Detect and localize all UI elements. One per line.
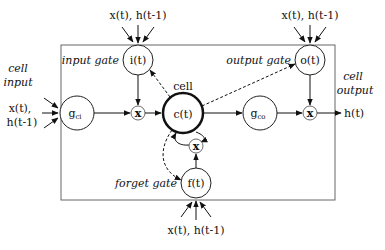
peephole-output-gate bbox=[202, 64, 295, 106]
input-gate-inputs-label: x(t), h(t-1) bbox=[109, 9, 166, 22]
input-gate-inputs: x(t), h(t-1) bbox=[109, 9, 166, 43]
output-gate-inputs: x(t), h(t-1) bbox=[281, 9, 338, 43]
cell-node: c(t) bbox=[163, 93, 203, 133]
input-gate-label: input gate bbox=[62, 54, 120, 67]
svg-text:c(t): c(t) bbox=[173, 108, 192, 121]
output-gate-node: o(t) bbox=[295, 45, 325, 75]
forget-gate-inputs: x(t), h(t-1) bbox=[167, 201, 224, 237]
lstm-diagram: x(t), h(t-1) x(t), h(t-1) i(t) input gat… bbox=[0, 0, 385, 250]
peephole-input-gate bbox=[150, 70, 170, 97]
left-input-label-2: h(t-1) bbox=[7, 116, 38, 129]
forget-gate-node: f(t) bbox=[181, 168, 211, 198]
cell-output-label-2: output bbox=[337, 84, 374, 97]
svg-text:i(t): i(t) bbox=[130, 54, 147, 67]
left-input-label-1: x(t), bbox=[9, 102, 32, 115]
multiply-input-node: x bbox=[131, 106, 145, 120]
svg-text:x: x bbox=[307, 107, 314, 120]
svg-text:x: x bbox=[193, 140, 200, 153]
cell-label: cell bbox=[173, 80, 193, 93]
output-gate-inputs-label: x(t), h(t-1) bbox=[281, 9, 338, 22]
svg-text:f(t): f(t) bbox=[187, 177, 204, 190]
output-label: h(t) bbox=[344, 107, 364, 120]
g-ci-node: gci bbox=[60, 96, 94, 130]
multiply-output-node: x bbox=[303, 106, 317, 120]
svg-text:o(t): o(t) bbox=[300, 54, 320, 67]
output-gate-label: output gate bbox=[226, 54, 291, 67]
input-gate-node: i(t) bbox=[123, 45, 153, 75]
forget-gate-inputs-label: x(t), h(t-1) bbox=[167, 224, 224, 237]
cell-input-label-2: input bbox=[3, 76, 33, 89]
peephole-forget-gate bbox=[163, 130, 181, 180]
cell-input-label-1: cell bbox=[8, 62, 28, 75]
edge-forget-mult-to-cell bbox=[175, 133, 189, 145]
forget-gate-label: forget gate bbox=[114, 177, 177, 190]
svg-text:x: x bbox=[135, 107, 142, 120]
cell-output-label-1: cell bbox=[343, 70, 363, 83]
multiply-forget-node: x bbox=[189, 139, 203, 153]
g-ci-inputs bbox=[42, 98, 58, 128]
g-co-node: gco bbox=[243, 96, 277, 130]
